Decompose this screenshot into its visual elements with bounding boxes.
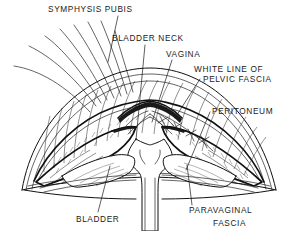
label-white-line-of-pelvic-fascia-line1: WHITE LINE OF [194,64,263,74]
label-peritoneum: PERITONEUM [212,106,273,116]
label-paravaginal-fascia-line1: PARAVAGINAL [189,205,252,215]
anatomical-figure: SYMPHYSIS PUBIS BLADDER NECK VAGINA WHIT… [0,0,296,231]
label-symphysis-pubis: SYMPHYSIS PUBIS [48,4,133,14]
illustration-canvas: SYMPHYSIS PUBIS BLADDER NECK VAGINA WHIT… [0,0,296,231]
label-white-line-of-pelvic-fascia-line2: PELVIC FASCIA [203,74,272,84]
label-bladder: BLADDER [76,214,119,224]
label-paravaginal-fascia-line2: FASCIA [213,218,246,228]
label-bladder-neck: BLADDER NECK [112,33,184,43]
label-vagina: VAGINA [166,49,200,59]
